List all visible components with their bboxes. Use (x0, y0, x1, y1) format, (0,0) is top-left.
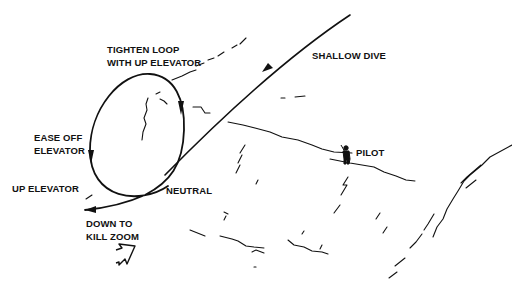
label-ease-off-elevator: EASE OFF ELEVATOR (34, 131, 85, 157)
loop-arrow-up-icon (88, 150, 94, 164)
label-up-elevator: UP ELEVATOR (12, 182, 79, 195)
label-pilot: PILOT (356, 146, 384, 159)
dive-arrow-icon (262, 63, 273, 72)
label-ease-off-line1: EASE OFF (34, 131, 85, 144)
label-tighten-loop-line1: TIGHTEN LOOP (107, 43, 201, 56)
label-down-to-line2: KILL ZOOM (86, 230, 139, 243)
dive-path (165, 15, 350, 175)
label-down-to-line1: DOWN TO (86, 217, 139, 230)
exit-arrow-icon (85, 206, 96, 213)
label-down-to-kill-zoom: DOWN TO KILL ZOOM (86, 217, 139, 243)
label-tighten-loop-line2: WITH UP ELEVATOR (107, 56, 201, 69)
label-tighten-loop: TIGHTEN LOOP WITH UP ELEVATOR (107, 43, 201, 69)
label-ease-off-line2: ELEVATOR (34, 144, 85, 157)
wind-arrow-icon (116, 244, 135, 265)
label-shallow-dive: SHALLOW DIVE (312, 49, 386, 62)
label-neutral: NEUTRAL (166, 184, 212, 197)
